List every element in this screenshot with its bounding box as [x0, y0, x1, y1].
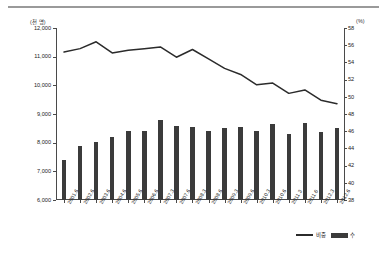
legend-line-swatch-icon: [296, 234, 313, 236]
right-tick-label: 52: [348, 76, 368, 82]
line-series: [56, 28, 345, 200]
left-tick-label: 11,000: [17, 53, 51, 59]
legend-label-bar: 수: [350, 231, 355, 239]
right-tick-label: 54: [348, 59, 368, 65]
right-tick-label: 38: [348, 197, 368, 203]
legend-item-line: 비중: [296, 231, 326, 239]
chart-figure: (천 명) (%) 6,0007,0008,0009,00010,00011,0…: [0, 0, 387, 259]
legend-bar-swatch-icon: [331, 233, 348, 238]
right-tick-label: 42: [348, 162, 368, 168]
right-tick-label: 56: [348, 42, 368, 48]
legend-item-bar: 수: [331, 231, 356, 239]
chart-legend: 비중 수: [296, 231, 355, 239]
right-tick-label: 40: [348, 180, 368, 186]
header-divider: [8, 6, 379, 8]
left-tick-label: 7,000: [17, 168, 51, 174]
right-tick-label: 44: [348, 145, 368, 151]
right-tick-label: 50: [348, 94, 368, 100]
legend-label-line: 비중: [316, 231, 326, 239]
right-tick-label: 48: [348, 111, 368, 117]
right-axis-unit-label: (%): [356, 18, 365, 24]
left-tick-label: 6,000: [17, 197, 51, 203]
left-tick-label: 8,000: [17, 139, 51, 145]
left-tick-label: 12,000: [17, 25, 51, 31]
right-tick-label: 58: [348, 25, 368, 31]
right-tick-label: 46: [348, 128, 368, 134]
left-tick: [53, 200, 56, 201]
plot-area: 6,0007,0008,0009,00010,00011,00012,000 3…: [56, 28, 345, 200]
left-tick-label: 10,000: [17, 82, 51, 88]
left-tick-label: 9,000: [17, 111, 51, 117]
